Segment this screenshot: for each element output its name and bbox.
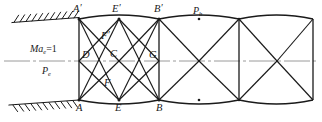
point-label-B: B [156,103,162,114]
cell3-char-up [239,61,277,100]
point-label-G: G [149,50,157,61]
point-label-F-prime: F′ [101,31,110,42]
point-label-E: E [115,103,121,114]
cell-1-characteristics [79,19,159,100]
point-label-F: F [104,78,110,89]
cell3-char-down [239,19,277,61]
lower-nozzle-lip [9,100,79,112]
cell2-char-up [159,61,199,100]
shock-cell-figure: A′ E′ B′ F′ D C G F A E B Mae=1 Pe Pb [0,0,322,122]
exit-mach-label: Mae=1 [30,44,57,54]
upper-lip-hatching [14,11,79,22]
cell2-char-down [159,19,199,61]
point-label-A: A [76,103,82,114]
point-label-D: D [82,50,90,61]
upper-nozzle-lip [12,11,79,23]
cell-2-characteristics [159,19,239,100]
back-pressure-label: Pb [193,6,202,16]
exit-pressure-label: Pe [42,66,51,76]
point-label-C: C [110,49,117,60]
point-label-A-prime: A′ [73,4,82,15]
point-label-E-prime: E′ [112,4,121,15]
cell2-char-up2 [199,19,239,61]
cell3-char-up2 [277,19,313,61]
free-boundary-bottom-cell-3 [239,100,313,104]
cell2-char-down2 [199,61,239,100]
point-label-B-prime: B′ [154,4,163,15]
cell3-char-down2 [277,61,313,100]
free-boundary-top-cell-3 [239,15,313,19]
cell-3-characteristics [239,19,313,100]
